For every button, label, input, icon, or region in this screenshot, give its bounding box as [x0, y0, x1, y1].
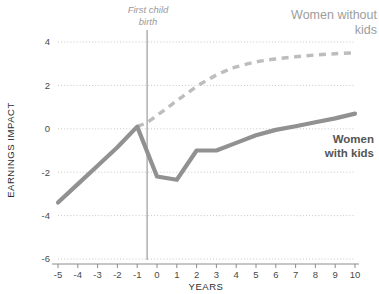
series-label-women-without-kids-line1: Women without — [291, 8, 377, 22]
x-tick-label--1: -1 — [133, 269, 141, 280]
series-label-women-without-kids-line2: kids — [355, 23, 377, 37]
first-child-birth-label-line1: First child — [128, 4, 169, 15]
x-tick-label-10: 10 — [350, 269, 361, 280]
y-tick-label--4: -4 — [42, 210, 50, 221]
series-label-women-with-kids-line1: Women — [333, 133, 374, 145]
x-tick-label--4: -4 — [74, 269, 82, 280]
series-path-women-with-kids — [58, 114, 355, 203]
y-tick-label--6: -6 — [42, 253, 50, 264]
chart-canvas: -5-4-3-2-1012345678910 420-2-4-6 EARNING… — [0, 0, 379, 294]
x-tick-label-9: 9 — [333, 269, 338, 280]
x-tick-label-0: 0 — [154, 269, 159, 280]
series-label-women-with-kids-line2: with kids — [324, 147, 374, 159]
x-tick-label-1: 1 — [174, 269, 179, 280]
x-axis-group: -5-4-3-2-1012345678910 — [52, 264, 360, 280]
x-tick-label-6: 6 — [273, 269, 278, 280]
x-tick-label--5: -5 — [54, 269, 62, 280]
x-tick-label-2: 2 — [194, 269, 199, 280]
x-tick-label--3: -3 — [93, 269, 101, 280]
x-tick-label-5: 5 — [253, 269, 258, 280]
first-child-birth-label-line2: birth — [139, 16, 157, 27]
y-tick-label-4: 4 — [45, 36, 50, 47]
x-tick-label-4: 4 — [234, 269, 239, 280]
earnings-impact-chart: -5-4-3-2-1012345678910 420-2-4-6 EARNING… — [0, 0, 379, 294]
x-tick-label-7: 7 — [293, 269, 298, 280]
x-tick-label--2: -2 — [113, 269, 121, 280]
data-series-group — [58, 53, 355, 203]
y-tick-label-2: 2 — [45, 80, 50, 91]
y-axis-title: EARNINGS IMPACT — [5, 102, 16, 198]
x-axis-title: YEARS — [189, 281, 224, 292]
y-tick-labels-group: 420-2-4-6 — [42, 36, 50, 264]
y-tick-label-0: 0 — [45, 123, 50, 134]
y-tick-label--2: -2 — [42, 167, 50, 178]
x-tick-label-3: 3 — [214, 269, 219, 280]
x-tick-label-8: 8 — [313, 269, 318, 280]
series-path-women-without-kids — [137, 53, 355, 127]
